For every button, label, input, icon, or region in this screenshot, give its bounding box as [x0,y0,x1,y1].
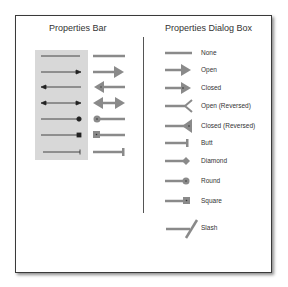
bar-thin-butt-icon[interactable] [43,150,80,155]
none-style-label: None [201,49,217,56]
bar-thick-square-icon[interactable] [93,131,125,138]
bar-thick-butt-icon[interactable] [93,148,125,156]
bar-thin-start-arrow-icon[interactable] [41,85,81,89]
bar-thick-round-icon[interactable] [94,116,126,123]
bar-thin-round-icon[interactable] [41,117,81,121]
bar-thin-end-arrow-icon[interactable] [41,70,81,74]
closed-reversed-style-icon[interactable] [165,119,192,133]
open-reversed-style-label: Open (Reversed) [201,102,251,109]
diamond-style-icon[interactable] [165,157,190,165]
bar-thin-both-arrows-icon[interactable] [41,101,81,105]
bar-thick-end-arrow-icon[interactable] [93,66,124,78]
slash-style-label: Slash [201,224,217,231]
diamond-style-label: Diamond [201,157,227,164]
open-style-label: Open [201,66,217,73]
square-style-icon[interactable] [165,197,190,204]
square-style-label: Square [201,197,222,204]
butt-style-icon[interactable] [165,139,189,147]
closed-style-label: Closed [201,84,221,91]
closed-reversed-style-label: Closed (Reversed) [201,122,255,129]
bar-thick-start-arrow-icon[interactable] [94,81,125,93]
butt-style-label: Butt [201,139,213,146]
closed-style-icon[interactable] [165,82,191,94]
round-style-label: Round [201,177,220,184]
bar-thin-square-icon[interactable] [41,133,81,137]
slash-style-icon[interactable] [166,220,197,238]
open-reversed-style-icon[interactable] [165,100,192,112]
line-end-styles [0,0,288,287]
round-style-icon[interactable] [165,178,190,185]
open-style-icon[interactable] [165,64,191,76]
bar-thick-both-arrows-icon[interactable] [93,97,125,109]
